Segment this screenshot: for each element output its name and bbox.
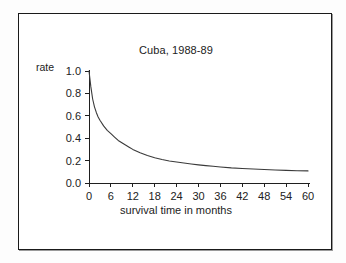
x-tick-label: 12 [127,190,139,202]
y-tick-label: 0.4 [66,132,81,144]
x-tick-label: 30 [192,190,204,202]
x-tick-label: 24 [170,190,182,202]
x-tick-label: 36 [214,190,226,202]
x-tick-label: 54 [280,190,292,202]
x-tick-label: 0 [86,190,92,202]
x-axis-ticks: 06121824303642485460 [86,183,314,202]
figure-page: Cuba, 1988-89 rate 0.00.20.40.60.81.0 06… [0,0,346,263]
x-axis-label: survival time in months [19,204,333,216]
x-tick-label: 42 [236,190,248,202]
y-tick-label: 0.6 [66,110,81,122]
x-tick-label: 6 [108,190,114,202]
y-tick-label: 1.0 [66,65,81,77]
survival-curve [89,71,308,171]
y-tick-label: 0.2 [66,155,81,167]
chart-frame: Cuba, 1988-89 rate 0.00.20.40.60.81.0 06… [18,13,332,250]
x-tick-label: 18 [149,190,161,202]
y-tick-label: 0.0 [66,177,81,189]
y-axis-ticks: 0.00.20.40.60.81.0 [66,65,89,189]
x-tick-label: 60 [302,190,314,202]
x-tick-label: 48 [258,190,270,202]
y-tick-label: 0.8 [66,87,81,99]
